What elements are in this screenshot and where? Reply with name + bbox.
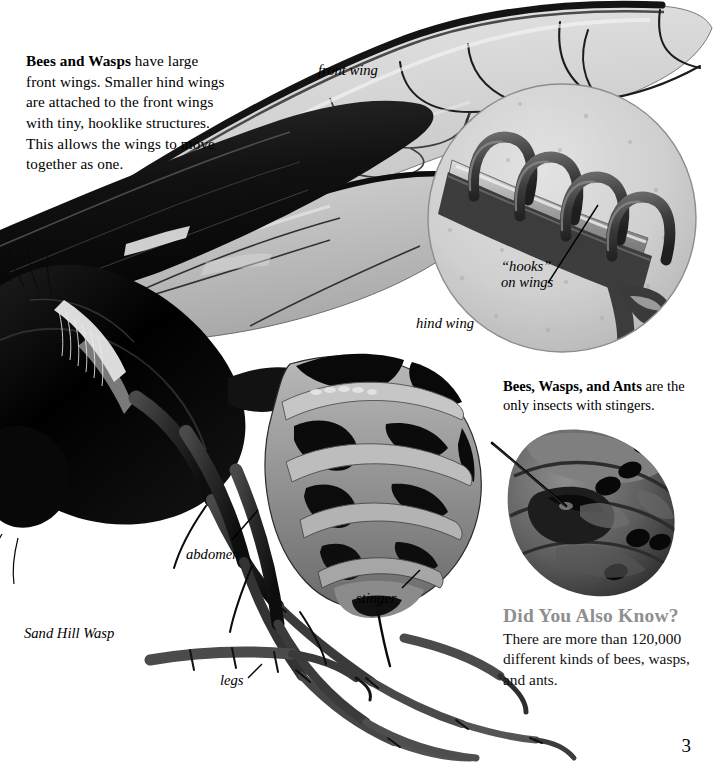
stinger-note-paragraph: Bees, Wasps, and Ants are the only insec… xyxy=(503,377,703,416)
did-you-also-know-title: Did You Also Know? xyxy=(503,604,708,628)
label-species-name: Sand Hill Wasp xyxy=(24,625,114,642)
stinger-note-lead: Bees, Wasps, and Ants xyxy=(503,378,642,394)
intro-paragraph: Bees and Wasps have large front wings. S… xyxy=(26,51,226,175)
abdomen-shape xyxy=(265,354,481,618)
label-hooks-line1: “hooks” xyxy=(501,258,551,275)
book-page: Bees and Wasps have large front wings. S… xyxy=(0,0,715,779)
intro-lead: Bees and Wasps xyxy=(26,52,131,69)
did-you-also-know-block: Did You Also Know? There are more than 1… xyxy=(503,604,708,690)
label-stinger: stinger xyxy=(356,590,397,607)
did-you-also-know-body: There are more than 120,000 different ki… xyxy=(503,629,708,690)
label-front-wing: front wing xyxy=(318,62,378,79)
abdomen-stinger-inset xyxy=(492,427,678,596)
label-hind-wing: hind wing xyxy=(416,315,474,332)
wing-hooks-inset xyxy=(428,84,696,352)
label-legs: legs xyxy=(220,672,244,689)
page-number: 3 xyxy=(682,735,692,757)
label-hooks-line2: on wings xyxy=(501,274,553,291)
label-abdomen: abdomen xyxy=(186,546,240,563)
intro-body: have large front wings. Smaller hind win… xyxy=(26,52,224,172)
